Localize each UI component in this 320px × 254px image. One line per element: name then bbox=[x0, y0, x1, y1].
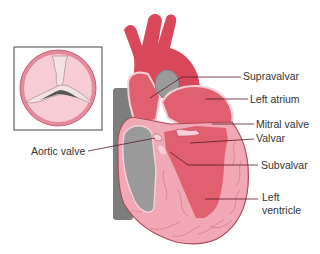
mitral-valve-leaflets bbox=[176, 129, 200, 136]
inset-aortic-valve bbox=[14, 47, 102, 130]
heart bbox=[113, 14, 248, 244]
label-supravalvar: Supravalvar bbox=[243, 71, 299, 82]
label-subvalvar: Subvalvar bbox=[261, 160, 308, 171]
label-left-ventricle-line2: ventricle bbox=[262, 205, 301, 216]
label-valvar: Valvar bbox=[256, 133, 285, 144]
label-left-atrium: Left atrium bbox=[250, 94, 300, 105]
label-aortic-valve: Aortic valve bbox=[31, 146, 85, 157]
left-atrium bbox=[162, 86, 232, 128]
label-left-ventricle-line1: Left bbox=[262, 192, 280, 203]
label-mitral-valve: Mitral valve bbox=[256, 119, 309, 130]
